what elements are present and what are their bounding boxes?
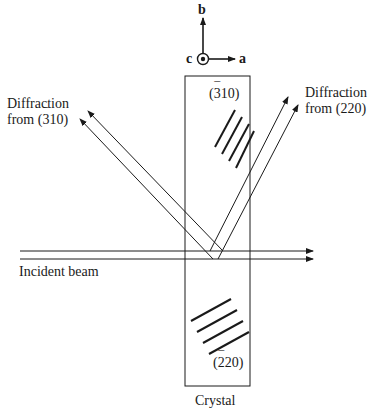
diffraction-left-label: Diffraction from (¯310) [7, 96, 69, 128]
axis-indicator [198, 18, 236, 65]
diffraction-beam-left [80, 111, 223, 259]
axis-label-b: b [198, 2, 206, 18]
plane-label-220: (¯220) [213, 355, 243, 371]
plane-label-310: (¯310) [209, 86, 239, 102]
crystal-label: Crystal [195, 393, 235, 409]
incident-beam-lines [20, 251, 313, 259]
diffraction-beam-right [210, 97, 298, 259]
crystal-box [185, 76, 250, 386]
axis-label-a: a [239, 51, 246, 67]
axis-label-c: c [186, 51, 192, 67]
plane-lines-220 [191, 299, 249, 354]
incident-beam-label: Incident beam [19, 264, 99, 280]
plane-lines-310 [215, 110, 254, 168]
diffraction-right-label: Diffraction from (¯220) [305, 85, 367, 117]
